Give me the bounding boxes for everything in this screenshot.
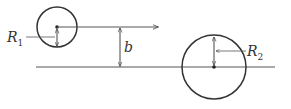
label-r2-sub: 2: [258, 52, 264, 62]
label-r2-text: R: [247, 43, 258, 59]
label-r1-text: R: [7, 29, 18, 45]
label-r1: R1: [7, 30, 23, 48]
circle-2-center: [212, 65, 216, 69]
label-b: b: [124, 40, 133, 54]
label-r2: R2: [247, 44, 263, 62]
label-r1-sub: 1: [18, 38, 24, 48]
label-b-text: b: [124, 39, 133, 55]
